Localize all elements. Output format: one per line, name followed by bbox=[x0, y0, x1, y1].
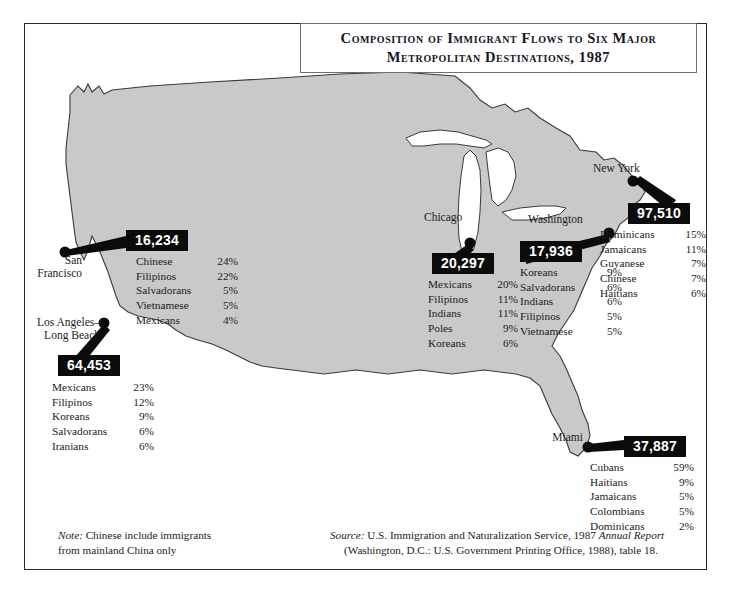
group-name: Indians bbox=[428, 306, 488, 321]
group-percent: 15% bbox=[678, 227, 706, 242]
breakdown-row: Vietnamese5% bbox=[136, 298, 238, 313]
note-line-1: Chinese include immigrants bbox=[83, 529, 211, 541]
value-box-new-york[interactable]: 97,510 bbox=[628, 203, 690, 224]
breakdown-san-francisco: Chinese24% Filipinos22% Salvadorans5% Vi… bbox=[136, 254, 238, 327]
group-name: Mexicans bbox=[52, 380, 126, 395]
group-name: Iranians bbox=[52, 439, 126, 454]
breakdown-row: Jamaicans5% bbox=[590, 489, 694, 504]
group-percent: 23% bbox=[126, 380, 154, 395]
breakdown-row: Colombians5% bbox=[590, 504, 694, 519]
group-percent: 5% bbox=[594, 324, 622, 339]
value-box-los-angeles[interactable]: 64,453 bbox=[58, 355, 120, 376]
source-text: Source: U.S. Immigration and Naturalizat… bbox=[330, 528, 690, 558]
source-publication-title: Annual Report bbox=[599, 529, 665, 541]
group-name: Guyanese bbox=[600, 256, 678, 271]
title-line-1: Composition of Immigrant Flows to Six Ma… bbox=[341, 29, 657, 48]
group-name: Poles bbox=[428, 321, 488, 336]
group-name: Dominicans bbox=[600, 227, 678, 242]
group-percent: 9% bbox=[126, 409, 154, 424]
dot-chicago bbox=[465, 238, 476, 249]
value-box-washington[interactable]: 17,936 bbox=[520, 241, 582, 262]
breakdown-row: Mexicans4% bbox=[136, 313, 238, 328]
city-label-new-york: New York bbox=[593, 162, 640, 175]
group-name: Colombians bbox=[590, 504, 666, 519]
breakdown-row: Poles9% bbox=[428, 321, 518, 336]
group-name: Salvadorans bbox=[136, 283, 210, 298]
group-percent: 9% bbox=[666, 475, 694, 490]
group-name: Jamaicans bbox=[600, 242, 678, 257]
breakdown-row: Dominicans15% bbox=[600, 227, 706, 242]
note-line-2: from mainland China only bbox=[58, 543, 308, 558]
group-percent: 6% bbox=[126, 439, 154, 454]
group-name: Haitians bbox=[600, 286, 678, 301]
source-label: Source: bbox=[330, 529, 364, 541]
group-percent: 11% bbox=[678, 242, 706, 257]
breakdown-row: Chinese24% bbox=[136, 254, 238, 269]
group-percent: 5% bbox=[594, 309, 622, 324]
breakdown-row: Filipinos12% bbox=[52, 395, 154, 410]
group-name: Chinese bbox=[136, 254, 210, 269]
breakdown-row: Indians11% bbox=[428, 306, 518, 321]
breakdown-row: Salvadorans6% bbox=[52, 424, 154, 439]
group-percent: 5% bbox=[210, 298, 238, 313]
group-percent: 24% bbox=[210, 254, 238, 269]
leader-miami bbox=[589, 440, 624, 452]
breakdown-los-angeles: Mexicans23% Filipinos12% Koreans9% Salva… bbox=[52, 380, 154, 453]
breakdown-row: Salvadorans5% bbox=[136, 283, 238, 298]
breakdown-row: Filipinos5% bbox=[520, 309, 622, 324]
group-name: Filipinos bbox=[52, 395, 126, 410]
dot-new-york bbox=[628, 176, 639, 187]
group-name: Filipinos bbox=[428, 292, 488, 307]
group-name: Koreans bbox=[52, 409, 126, 424]
group-percent: 4% bbox=[210, 313, 238, 328]
group-percent: 7% bbox=[678, 256, 706, 271]
city-label-los-angeles-line2: Long Beach bbox=[12, 329, 100, 342]
breakdown-row: Mexicans23% bbox=[52, 380, 154, 395]
city-label-washington: Washington bbox=[528, 213, 583, 226]
source-line-1: U.S. Immigration and Naturalization Serv… bbox=[364, 529, 598, 541]
breakdown-miami: Cubans59% Haitians9% Jamaicans5% Colombi… bbox=[590, 460, 694, 533]
group-name: Mexicans bbox=[428, 277, 488, 292]
breakdown-row: Guyanese7% bbox=[600, 256, 706, 271]
group-name: Vietnamese bbox=[136, 298, 210, 313]
value-box-miami[interactable]: 37,887 bbox=[624, 436, 686, 457]
breakdown-new-york: Dominicans15% Jamaicans11% Guyanese7% Ch… bbox=[600, 227, 706, 300]
group-percent: 7% bbox=[678, 271, 706, 286]
group-name: Chinese bbox=[600, 271, 678, 286]
group-name: Jamaicans bbox=[590, 489, 666, 504]
dot-miami bbox=[583, 442, 594, 453]
group-name: Cubans bbox=[590, 460, 666, 475]
title-line-2: Metropolitan Destinations, 1987 bbox=[387, 48, 610, 67]
breakdown-row: Filipinos11% bbox=[428, 292, 518, 307]
group-percent: 5% bbox=[210, 283, 238, 298]
group-name: Salvadorans bbox=[520, 280, 594, 295]
note-label: Note: bbox=[58, 529, 83, 541]
group-percent: 59% bbox=[666, 460, 694, 475]
group-percent: 12% bbox=[126, 395, 154, 410]
group-name: Haitians bbox=[590, 475, 666, 490]
breakdown-row: Filipinos22% bbox=[136, 269, 238, 284]
breakdown-row: Mexicans20% bbox=[428, 277, 518, 292]
value-box-san-francisco[interactable]: 16,234 bbox=[126, 230, 188, 251]
value-box-chicago[interactable]: 20,297 bbox=[432, 253, 494, 274]
city-label-san-francisco: San Francisco bbox=[18, 254, 82, 280]
source-line-2: (Washington, D.C.: U.S. Government Print… bbox=[330, 543, 690, 558]
city-label-los-angeles: Los Angeles– Long Beach bbox=[12, 316, 100, 342]
group-percent: 5% bbox=[666, 489, 694, 504]
breakdown-chicago: Mexicans20% Filipinos11% Indians11% Pole… bbox=[428, 277, 518, 350]
breakdown-row: Iranians6% bbox=[52, 439, 154, 454]
breakdown-row: Koreans9% bbox=[52, 409, 154, 424]
group-name: Koreans bbox=[520, 265, 594, 280]
figure-title: Composition of Immigrant Flows to Six Ma… bbox=[300, 23, 697, 73]
city-label-miami: Miami bbox=[523, 431, 583, 444]
city-label-san-francisco-line2: Francisco bbox=[18, 267, 82, 280]
breakdown-row: Haitians6% bbox=[600, 286, 706, 301]
group-name: Salvadorans bbox=[52, 424, 126, 439]
group-name: Mexicans bbox=[136, 313, 210, 328]
group-percent: 6% bbox=[126, 424, 154, 439]
breakdown-row: Jamaicans11% bbox=[600, 242, 706, 257]
breakdown-row: Vietnamese5% bbox=[520, 324, 622, 339]
breakdown-row: Cubans59% bbox=[590, 460, 694, 475]
group-percent: 5% bbox=[666, 504, 694, 519]
breakdown-row: Haitians9% bbox=[590, 475, 694, 490]
